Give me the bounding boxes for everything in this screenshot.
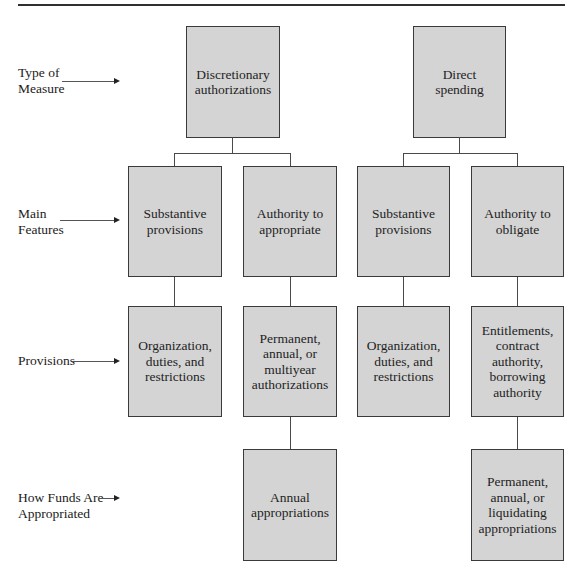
connector (232, 137, 233, 154)
node-permanent-annual-multiyear: Permanent, annual, or multiyear authoriz… (243, 306, 337, 417)
connector (290, 277, 291, 306)
row-label-type-of-measure: Type of Measure (18, 65, 64, 96)
connector (403, 153, 404, 166)
node-permanent-annual-liquidating: Permanent, annual, or liquidating approp… (471, 449, 564, 561)
node-authority-to-obligate: Authority to obligate (471, 166, 564, 277)
arrow-icon (60, 220, 118, 221)
arrow-icon (62, 81, 118, 82)
row-label-how-funds-appropriated: How Funds Are Appropriated (18, 490, 104, 521)
node-discretionary-authorizations: Discretionary authorizations (186, 26, 280, 138)
arrow-icon (72, 361, 118, 362)
node-authority-to-appropriate: Authority to appropriate (243, 166, 337, 277)
connector (174, 277, 175, 306)
node-entitlements: Entitlements, contract authority, borrow… (471, 306, 564, 417)
node-direct-spending: Direct spending (413, 26, 506, 138)
node-direct-substantive-provisions: Substantive provisions (357, 166, 450, 277)
connector (403, 277, 404, 306)
connector (517, 417, 518, 449)
node-disc-organization-duties: Organization, duties, and restrictions (128, 306, 222, 417)
connector (517, 153, 518, 166)
node-direct-organization-duties: Organization, duties, and restrictions (357, 306, 450, 417)
connector (459, 137, 460, 154)
top-rule (18, 4, 565, 6)
arrow-icon (98, 498, 118, 499)
connector (174, 153, 175, 166)
connector (403, 153, 518, 154)
row-label-main-features: Main Features (18, 206, 64, 237)
node-disc-substantive-provisions: Substantive provisions (128, 166, 222, 277)
row-label-provisions: Provisions (18, 353, 75, 369)
connector (174, 153, 291, 154)
connector (290, 417, 291, 449)
connector (517, 277, 518, 306)
node-annual-appropriations: Annual appropriations (243, 449, 337, 561)
connector (290, 153, 291, 166)
